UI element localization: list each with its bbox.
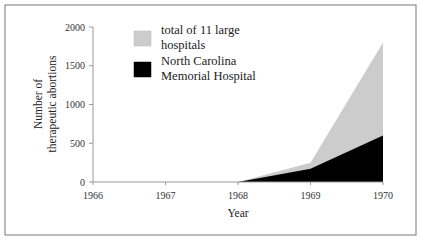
legend-label: total of 11 large: [161, 23, 240, 37]
y-tick-label: 1500: [65, 60, 85, 71]
legend-swatch-1: [134, 62, 151, 77]
x-axis-title: Year: [227, 207, 248, 219]
legend-label: North Carolina: [161, 54, 237, 68]
x-tick-label: 1969: [301, 190, 321, 201]
legend-label: Memorial Hospital: [161, 69, 256, 83]
y-tick-label: 1000: [65, 99, 85, 110]
y-axis-title: Number oftherapeutic abortions: [32, 55, 59, 152]
y-tick-label: 500: [70, 138, 85, 149]
x-tick-label: 1966: [83, 190, 103, 201]
x-tick-label: 1967: [156, 190, 176, 201]
legend: total of 11 largehospitalsNorth Carolina…: [134, 23, 256, 83]
x-tick-label: 1970: [373, 190, 393, 201]
y-tick-label: 2000: [65, 22, 85, 33]
x-tick-label: 1968: [228, 190, 248, 201]
legend-label: hospitals: [161, 38, 206, 52]
y-tick-label: 0: [80, 177, 85, 188]
chart: 050010001500200019661967196819691970Year…: [0, 0, 421, 241]
legend-swatch-0: [134, 31, 151, 46]
